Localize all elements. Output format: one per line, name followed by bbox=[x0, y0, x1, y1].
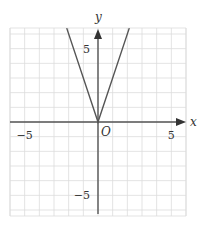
x-axis-label: x bbox=[190, 115, 197, 129]
y-tick-label: 5 bbox=[83, 43, 90, 56]
y-axis-label: y bbox=[94, 10, 102, 24]
origin-label: O bbox=[101, 125, 111, 139]
graph: x y O −555−5 bbox=[0, 0, 204, 225]
x-tick-label: −5 bbox=[17, 129, 33, 142]
x-tick-label: 5 bbox=[168, 129, 175, 142]
x-axis-arrow-icon bbox=[176, 118, 186, 126]
y-tick-label: −5 bbox=[74, 189, 90, 202]
